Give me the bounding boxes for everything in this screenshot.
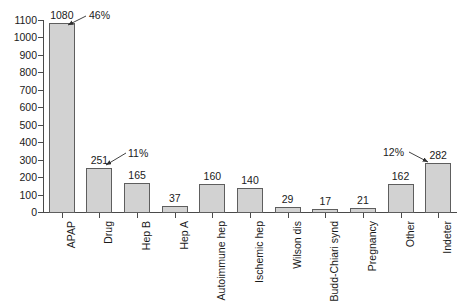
y-axis-tick-label: 800 bbox=[3, 67, 37, 78]
bar bbox=[388, 184, 414, 213]
annotation-label-12: 12% bbox=[383, 147, 404, 158]
y-axis-line bbox=[43, 20, 44, 213]
bar-value-label: 251 bbox=[91, 155, 109, 166]
x-axis-category-label: Wilson dis bbox=[292, 221, 303, 269]
x-axis-category-label: Drug bbox=[103, 221, 114, 244]
y-axis: 010020030040050060070080090010001100 bbox=[0, 0, 37, 306]
x-axis-tick bbox=[325, 213, 326, 218]
x-axis-tick bbox=[137, 213, 138, 218]
x-axis-category-label: Hep A bbox=[179, 221, 190, 250]
x-axis-tick bbox=[175, 213, 176, 218]
x-axis-category-label: Indeter bbox=[442, 221, 453, 254]
y-axis-tick bbox=[38, 212, 43, 213]
bar-value-label: 140 bbox=[241, 175, 259, 186]
arrow-12 bbox=[409, 152, 428, 162]
y-axis-tick-label: 600 bbox=[3, 102, 37, 113]
y-axis-tick bbox=[38, 195, 43, 196]
bar-value-label: 37 bbox=[169, 193, 181, 204]
bar bbox=[237, 188, 263, 213]
x-axis-tick bbox=[99, 213, 100, 218]
annotation-label-46: 46% bbox=[89, 10, 110, 21]
x-axis-category-label: Budd-Chiari synd bbox=[329, 221, 340, 302]
bar-value-label: 21 bbox=[357, 195, 369, 206]
bar-value-label: 165 bbox=[128, 170, 146, 181]
y-axis-tick-label: 1000 bbox=[3, 32, 37, 43]
x-axis-category-label: Pregnancy bbox=[367, 221, 378, 271]
x-axis-tick bbox=[438, 213, 439, 218]
y-axis-tick-label: 500 bbox=[3, 119, 37, 130]
x-axis-tick bbox=[250, 213, 251, 218]
x-axis-category-label: Autoimmune hep bbox=[216, 221, 227, 300]
bar-chart: 010020030040050060070080090010001100 108… bbox=[0, 0, 464, 306]
x-axis-tick bbox=[212, 213, 213, 218]
y-axis-tick-label: 400 bbox=[3, 137, 37, 148]
x-axis-category-label: Other bbox=[405, 221, 416, 247]
y-axis-tick bbox=[38, 72, 43, 73]
y-axis-tick-label: 900 bbox=[3, 50, 37, 61]
x-axis-tick bbox=[62, 213, 63, 218]
x-axis-category-label: Hep B bbox=[141, 221, 152, 250]
bar-value-label: 17 bbox=[319, 196, 331, 207]
y-axis-tick-label: 0 bbox=[3, 207, 37, 218]
y-axis-tick-label: 200 bbox=[3, 172, 37, 183]
y-axis-tick-label: 300 bbox=[3, 154, 37, 165]
y-axis-tick bbox=[38, 160, 43, 161]
y-axis-tick-label: 1100 bbox=[3, 15, 37, 26]
x-axis-tick bbox=[288, 213, 289, 218]
y-axis-tick bbox=[38, 90, 43, 91]
bar-value-label: 162 bbox=[392, 171, 410, 182]
y-axis-tick bbox=[38, 107, 43, 108]
x-axis-tick bbox=[401, 213, 402, 218]
bar bbox=[199, 184, 225, 213]
bar bbox=[425, 163, 451, 213]
bar bbox=[86, 168, 112, 213]
bar-value-label: 1080 bbox=[50, 10, 73, 21]
bar-value-label: 282 bbox=[429, 150, 447, 161]
y-axis-tick bbox=[38, 142, 43, 143]
arrow-11 bbox=[106, 153, 126, 165]
y-axis-tick bbox=[38, 55, 43, 56]
bar bbox=[49, 23, 75, 213]
y-axis-tick bbox=[38, 125, 43, 126]
y-axis-tick bbox=[38, 20, 43, 21]
x-axis-category-label: Ischemic hep bbox=[254, 221, 265, 283]
y-axis-tick-label: 700 bbox=[3, 85, 37, 96]
bar bbox=[162, 206, 188, 213]
y-axis-tick bbox=[38, 37, 43, 38]
y-axis-tick-label: 100 bbox=[3, 189, 37, 200]
bar-value-label: 160 bbox=[204, 171, 222, 182]
x-axis-category-label: APAP bbox=[66, 221, 77, 248]
x-axis-tick bbox=[363, 213, 364, 218]
annotation-label-11: 11% bbox=[128, 148, 148, 159]
bar-value-label: 29 bbox=[282, 194, 294, 205]
bar bbox=[124, 183, 150, 213]
y-axis-tick bbox=[38, 177, 43, 178]
